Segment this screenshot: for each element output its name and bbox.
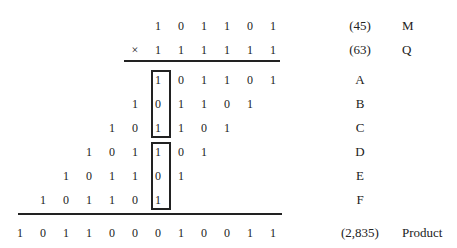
bit: 1: [174, 169, 188, 183]
bit: 1: [220, 121, 234, 135]
bit: 0: [128, 193, 142, 207]
row-decimal: B: [330, 97, 390, 111]
bit: 0: [105, 145, 119, 159]
bit: 1: [197, 43, 211, 57]
row-decimal: (45): [330, 19, 390, 33]
bit: 1: [174, 226, 188, 240]
bit: 1: [59, 169, 73, 183]
bit: 1: [13, 226, 27, 240]
row-decimal: E: [330, 169, 390, 183]
bit: 1: [197, 97, 211, 111]
bit: 1: [128, 145, 142, 159]
bit: 1: [128, 169, 142, 183]
bit: 1: [128, 97, 142, 111]
bit: 1: [105, 121, 119, 135]
bit: 1: [59, 226, 73, 240]
bit: 0: [82, 169, 96, 183]
bit: 1: [266, 19, 280, 33]
bit: 0: [174, 145, 188, 159]
bit: 1: [174, 43, 188, 57]
bit: 1: [266, 73, 280, 87]
bit: 1: [243, 226, 257, 240]
row-decimal: C: [330, 121, 390, 135]
row-label: Q: [402, 43, 411, 57]
bit: 1: [220, 43, 234, 57]
bit: 1: [82, 145, 96, 159]
bit: 1: [266, 226, 280, 240]
bit: 0: [36, 226, 50, 240]
row-decimal: (2,835): [330, 226, 390, 240]
bit: 1: [266, 43, 280, 57]
bit: 1: [243, 97, 257, 111]
bit: 1: [197, 145, 211, 159]
bit: 0: [220, 226, 234, 240]
bit: 0: [105, 226, 119, 240]
highlight-box-upper: [151, 70, 171, 138]
bit: 1: [174, 121, 188, 135]
bit: 0: [128, 121, 142, 135]
bit: 0: [174, 19, 188, 33]
bit: 0: [197, 226, 211, 240]
bit: 0: [197, 121, 211, 135]
bit: 1: [220, 19, 234, 33]
bit: 1: [105, 193, 119, 207]
bit: 1: [82, 226, 96, 240]
bit: 0: [128, 226, 142, 240]
row-label: M: [402, 19, 414, 33]
bit: 1: [220, 73, 234, 87]
bit: 1: [151, 43, 165, 57]
bit: 1: [105, 169, 119, 183]
product-underline: [18, 213, 282, 215]
bit: 0: [243, 19, 257, 33]
bit: 1: [151, 19, 165, 33]
row-label: Product: [402, 226, 442, 240]
multiplier-underline: [124, 60, 280, 62]
bit: 1: [36, 193, 50, 207]
bit: 1: [243, 43, 257, 57]
row-decimal: A: [330, 73, 390, 87]
row-decimal: (63): [330, 43, 390, 57]
bit: 1: [82, 193, 96, 207]
bit: 1: [197, 73, 211, 87]
multiply-sign: ×: [128, 43, 142, 57]
row-decimal: D: [330, 145, 390, 159]
bit: 0: [243, 73, 257, 87]
bit: 0: [174, 73, 188, 87]
bit: 0: [151, 226, 165, 240]
bit: 1: [197, 19, 211, 33]
bit: 1: [174, 97, 188, 111]
highlight-box-lower: [151, 142, 171, 210]
row-decimal: F: [330, 193, 390, 207]
bit: 0: [220, 97, 234, 111]
bit: 0: [59, 193, 73, 207]
